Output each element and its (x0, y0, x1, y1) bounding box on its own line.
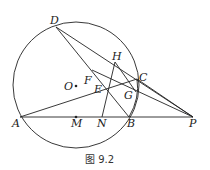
label-c: C (139, 71, 148, 84)
label-b: B (126, 117, 135, 130)
geometry-diagram: D H C F O E G A M N B P 图 9.2 (0, 0, 210, 170)
label-o: O (64, 80, 73, 93)
label-h: H (111, 50, 122, 63)
label-g: G (124, 89, 133, 102)
line-db (56, 27, 129, 117)
label-f: F (83, 74, 92, 87)
label-e: E (93, 83, 102, 96)
line-ac (20, 79, 137, 117)
label-m: M (70, 117, 83, 130)
label-n: N (96, 117, 107, 130)
label-d: D (49, 14, 59, 27)
figure-caption: 图 9.2 (85, 154, 114, 165)
label-a: A (11, 117, 20, 130)
line-cp (137, 79, 193, 117)
point-o-dot (75, 85, 78, 88)
label-p: P (188, 117, 197, 130)
